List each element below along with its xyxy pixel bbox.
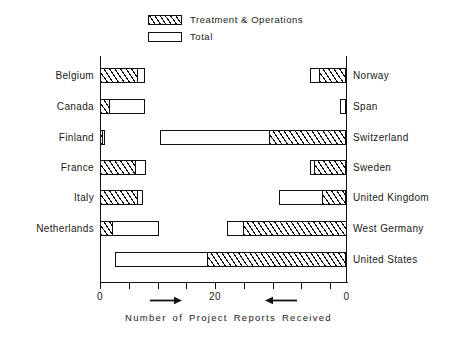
- legend-label-treatment: Treatment & Operations: [190, 14, 303, 25]
- bar-segment-treatment: [269, 130, 346, 145]
- bar-segment-total: [340, 99, 347, 114]
- bar-segment-treatment: [207, 252, 346, 267]
- x-axis-tick: [215, 283, 216, 289]
- category-label-west-germany: West Germany: [353, 221, 424, 236]
- x-axis-tick: [301, 283, 302, 289]
- x-axis-tick: [244, 283, 245, 289]
- category-label-span: Span: [353, 99, 378, 114]
- bar-chart: Treatment & Operations Total 0200Belgium…: [0, 0, 457, 339]
- x-axis: [100, 282, 348, 283]
- bar-segment-treatment: [243, 221, 347, 236]
- right-panel-direction-arrow-icon: [265, 296, 297, 305]
- legend-item-treatment: Treatment & Operations: [148, 12, 303, 27]
- x-axis-tick: [100, 283, 101, 289]
- legend-item-total: Total: [148, 29, 303, 44]
- category-label-united-kingdom: United Kingdom: [353, 190, 429, 205]
- x-axis-title: Number of Project Reports Received: [0, 312, 457, 323]
- x-axis-tick-label: 0: [97, 291, 103, 302]
- legend-label-total: Total: [190, 31, 213, 42]
- x-axis-tick: [273, 283, 274, 289]
- category-label-united-states: United States: [353, 252, 418, 267]
- x-axis-tick: [330, 283, 331, 289]
- category-label-norway: Norway: [353, 68, 389, 83]
- x-axis-tick-label: 0: [343, 291, 349, 302]
- x-axis-tick: [158, 283, 159, 289]
- x-axis-tick: [186, 283, 187, 289]
- category-label-sweden: Sweden: [353, 160, 391, 175]
- category-label-switzerland: Switzerland: [353, 130, 409, 145]
- left-panel-direction-arrow-icon: [150, 296, 182, 305]
- bar-segment-treatment: [314, 160, 346, 175]
- chart-legend: Treatment & Operations Total: [148, 12, 303, 46]
- bar-segment-treatment: [319, 68, 346, 83]
- x-axis-tick-label: 20: [209, 291, 221, 302]
- bar-segment-treatment: [322, 190, 347, 205]
- x-axis-tick: [129, 283, 130, 289]
- bar-row: [0, 99, 457, 114]
- legend-swatch-treatment-icon: [148, 15, 182, 25]
- legend-swatch-total-icon: [148, 32, 182, 42]
